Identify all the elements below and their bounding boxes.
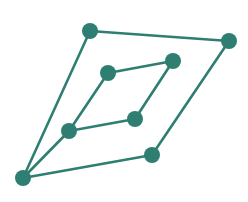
node-inner-top: [165, 53, 181, 69]
graph-diagram: [0, 0, 248, 202]
edge-outer-right-top: [152, 41, 229, 155]
node-inner-left: [100, 65, 116, 81]
node-bottom: [15, 170, 31, 186]
edge-inner-right-inner-top: [135, 61, 173, 119]
edge-bottom-outer-left: [23, 31, 90, 178]
nodes-layer: [15, 23, 237, 186]
node-outer-right: [144, 147, 160, 163]
edge-inner-bottom-inner-right: [69, 119, 135, 131]
edge-outer-left-top: [90, 31, 229, 41]
edge-inner-bottom-inner-left: [69, 73, 108, 131]
node-outer-left: [82, 23, 98, 39]
node-top: [221, 33, 237, 49]
node-inner-right: [127, 111, 143, 127]
node-inner-bottom: [61, 123, 77, 139]
edges-layer: [23, 31, 229, 178]
edge-inner-left-inner-top: [108, 61, 173, 73]
